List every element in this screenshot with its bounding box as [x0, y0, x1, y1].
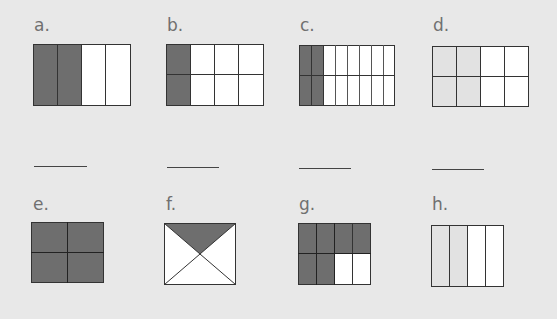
label-e: e.	[33, 196, 49, 213]
answer-blank-4[interactable]	[432, 169, 484, 170]
answer-blank-2[interactable]	[167, 167, 219, 168]
figure-h-fraction-bar	[431, 225, 504, 287]
answer-blank-3[interactable]	[299, 168, 351, 169]
label-b: b.	[167, 17, 183, 34]
answer-blank-1[interactable]	[34, 166, 87, 167]
label-a: a.	[34, 17, 50, 34]
label-h: h.	[432, 196, 448, 213]
figure-b-fraction-grid	[166, 44, 264, 106]
label-d: d.	[433, 17, 449, 34]
figure-f-diagonal-split	[164, 223, 236, 285]
figure-e-fraction-grid	[31, 222, 104, 283]
figure-d-fraction-grid	[432, 46, 529, 107]
figure-a-fraction-bar	[33, 44, 131, 106]
figure-g-fraction-grid	[298, 223, 371, 285]
label-f: f.	[166, 196, 176, 213]
label-g: g.	[299, 196, 315, 213]
figure-c-fraction-grid	[299, 45, 395, 106]
label-c: c.	[300, 17, 315, 34]
